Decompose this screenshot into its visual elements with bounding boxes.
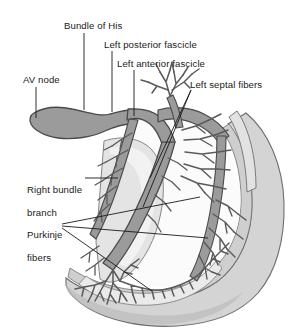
label-right-bundle-line2: branch [27, 207, 57, 218]
label-bundle-of-his: Bundle of His [64, 20, 122, 32]
conduction-system-figure: Bundle of His Left posterior fascicle Le… [0, 0, 296, 332]
av-node-shape [30, 107, 131, 138]
label-purkinje-line1: Purkinje [27, 229, 62, 240]
label-right-bundle-line1: Right bundle [27, 184, 82, 195]
label-purkinje-line2: fibers [27, 252, 51, 263]
label-left-septal-fibers: Left septal fibers [190, 79, 262, 91]
label-left-posterior-fascicle: Left posterior fascicle [104, 39, 197, 51]
label-left-anterior-fascicle: Left anterior fascicle [117, 58, 205, 70]
label-av-node: AV node [23, 74, 60, 86]
label-purkinje-fibers: Purkinje fibers [16, 217, 63, 275]
